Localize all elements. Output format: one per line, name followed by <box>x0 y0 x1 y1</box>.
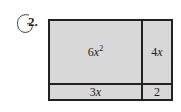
cell-bottom-left: 3x <box>50 85 143 99</box>
cell-top-right-label: 4x <box>151 45 162 60</box>
cell-bottom-right-label: 2 <box>154 85 160 100</box>
cell-top-right: 4x <box>143 21 171 85</box>
cell-bottom-left-label: 3x <box>90 85 101 100</box>
problem-number-circled: 2. <box>14 12 38 34</box>
cell-bottom-right: 2 <box>143 85 171 99</box>
cell-top-left-label: 6x2 <box>88 44 103 60</box>
area-model-rectangle: 6x2 4x 3x 2 <box>48 19 173 101</box>
problem-number: 2. <box>28 14 38 30</box>
cell-top-left: 6x2 <box>50 21 143 85</box>
